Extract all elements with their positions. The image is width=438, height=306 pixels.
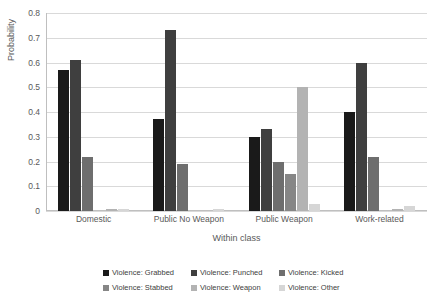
chart-legend: Violence: GrabbedViolence: PunchedViolen… [103, 265, 363, 295]
legend-item[interactable]: Violence: Kicked [279, 265, 363, 280]
legend-label: Violence: Grabbed [112, 268, 174, 277]
bar [297, 87, 308, 211]
y-tick-label: 0.3 [0, 133, 40, 142]
x-tick-label: Domestic [46, 214, 141, 224]
x-tick-label: Public Weapon [237, 214, 332, 224]
y-tick-label: 0.6 [0, 59, 40, 68]
legend-swatch-icon [191, 270, 197, 276]
x-tick-label: Work-related [332, 214, 427, 224]
y-tick-label: 0.7 [0, 34, 40, 43]
x-axis-label: Within class [46, 233, 427, 243]
legend-swatch-icon [191, 285, 197, 291]
bar-groups [46, 13, 427, 211]
bar [309, 204, 320, 211]
legend-item[interactable]: Violence: Grabbed [103, 265, 187, 280]
bar [344, 112, 355, 211]
bar [368, 157, 379, 211]
bar [177, 164, 188, 211]
bar [70, 60, 81, 211]
legend-label: Violence: Kicked [288, 268, 343, 277]
y-axis-label-wrapper: Probability [8, 0, 22, 211]
y-tick-label: 0.8 [0, 9, 40, 18]
bar [165, 30, 176, 211]
bar [153, 119, 164, 211]
x-tick-label: Public No Weapon [141, 214, 236, 224]
bar-group [237, 13, 332, 211]
bar [118, 209, 129, 211]
bar [213, 209, 224, 211]
legend-label: Violence: Weapon [200, 283, 261, 292]
legend-swatch-icon [279, 285, 285, 291]
bar-chart: Probability 0.80.70.60.50.40.30.20.10 Do… [0, 0, 438, 306]
bar [261, 129, 272, 211]
legend-item[interactable]: Violence: Other [279, 280, 363, 295]
y-tick-label: 0.4 [0, 108, 40, 117]
legend-item[interactable]: Violence: Punched [191, 265, 275, 280]
bar [273, 162, 284, 212]
x-axis-category-labels: DomesticPublic No WeaponPublic WeaponWor… [46, 214, 427, 224]
bar-group [332, 13, 427, 211]
bar-group [141, 13, 236, 211]
legend-label: Violence: Stabbed [112, 283, 173, 292]
bar-group [46, 13, 141, 211]
legend-item[interactable]: Violence: Stabbed [103, 280, 187, 295]
legend-swatch-icon [279, 270, 285, 276]
bar [285, 174, 296, 211]
legend-label: Violence: Other [288, 283, 340, 292]
bar [82, 157, 93, 211]
legend-item[interactable]: Violence: Weapon [191, 280, 275, 295]
bar [404, 206, 415, 211]
y-tick-label: 0.5 [0, 83, 40, 92]
y-tick-label: 0.1 [0, 182, 40, 191]
y-tick-label: 0.2 [0, 158, 40, 167]
bar [392, 209, 403, 211]
bar [106, 209, 117, 211]
bar [356, 63, 367, 212]
bar [249, 137, 260, 211]
legend-swatch-icon [103, 285, 109, 291]
y-tick-label: 0 [0, 207, 40, 216]
legend-swatch-icon [103, 270, 109, 276]
bar [58, 70, 69, 211]
legend-label: Violence: Punched [200, 268, 262, 277]
gridline [46, 211, 427, 212]
